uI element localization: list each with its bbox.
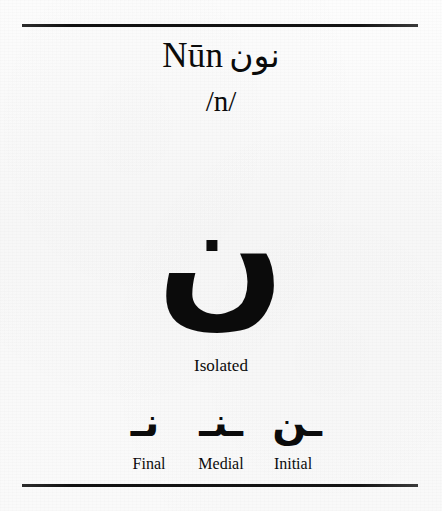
isolated-form-glyph: ن: [0, 176, 442, 336]
form-glyph-medial: ـنـ: [192, 398, 250, 446]
letter-phoneme: /n/: [0, 84, 442, 118]
form-label-final: Final: [120, 453, 178, 474]
form-glyph-initial: نـ: [116, 398, 174, 446]
positional-forms-labels: Final Medial Initial: [0, 453, 442, 474]
letter-arabic-name: نون: [223, 36, 279, 75]
bottom-horizontal-rule: [22, 484, 418, 487]
top-horizontal-rule: [22, 24, 418, 27]
isolated-form-label: Isolated: [0, 355, 442, 377]
positional-forms-row: ـن ـنـ نـ: [0, 398, 442, 448]
form-label-medial: Medial: [192, 453, 250, 474]
form-glyph-final: ـن: [268, 398, 326, 446]
form-label-initial: Initial: [264, 453, 322, 474]
letter-romanized-name: Nūn: [162, 36, 223, 75]
scanned-page: Nūnنون /n/ ن Isolated ـن ـنـ نـ Final Me…: [0, 0, 442, 511]
letter-title: Nūnنون: [0, 34, 442, 78]
